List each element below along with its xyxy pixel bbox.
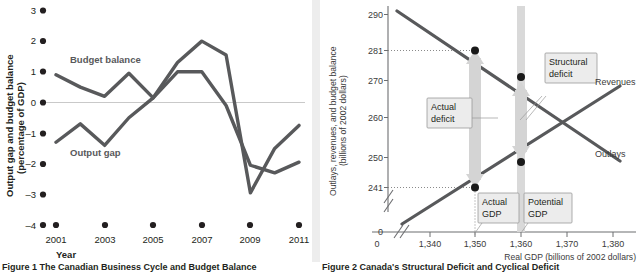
- revenues-label: Revenues: [595, 77, 636, 87]
- figure-1-panel: Output gap and budget balance (percentag…: [0, 0, 319, 272]
- left-xtick-2007: 2007: [191, 234, 212, 245]
- right-xtick-1380: 1,380: [602, 239, 625, 249]
- marker-actual-outlays: [471, 47, 479, 55]
- left-ytick-m3: –3: [25, 189, 36, 200]
- callout-structural-deficit: Structural deficit: [545, 53, 597, 83]
- callout-actual-gdp-line1: Actual: [482, 197, 507, 207]
- marker-potential-outlays: [517, 73, 525, 81]
- right-x-axis-title: Real GDP (billions of 2002 dollars): [504, 252, 636, 262]
- budget-balance-label: Budget balance: [70, 54, 141, 65]
- left-ytick-dot-m3: [40, 191, 46, 197]
- figure-2-panel: Outlays, revenues, and budget balance (b…: [320, 0, 639, 272]
- left-x-ticks: 2001 2003 2005 2007 2009 2011: [45, 222, 309, 245]
- right-ytick-290: 290: [368, 10, 383, 20]
- callout-structural-deficit-line2: deficit: [549, 69, 573, 79]
- right-ytick-260: 260: [368, 113, 383, 123]
- right-xtick-1360: 1,360: [510, 239, 533, 249]
- left-ytick-2: 2: [31, 35, 36, 46]
- left-xtick-2009: 2009: [239, 234, 260, 245]
- left-ytick-dot-m4: [40, 222, 46, 228]
- outlays-label: Outlays: [595, 149, 626, 159]
- left-xtick-dot-2005: [150, 222, 156, 228]
- right-y-axis-title: Outlays, revenues, and budget balance (b…: [328, 46, 348, 196]
- axis-break-marks: [384, 190, 409, 238]
- left-ytick-1: 1: [31, 66, 36, 77]
- left-ytick-dot-m2: [40, 161, 46, 167]
- right-y-axis-title-line2: (billions of 2002 dollars): [338, 75, 348, 166]
- marker-potential-revenues: [517, 158, 525, 166]
- callout-actual-deficit-line1: Actual: [431, 102, 456, 112]
- left-y-axis-title: Output gap and budget balance (percentag…: [4, 55, 26, 198]
- left-y-ticks: 3 2 1 0 –1 –2 –3 –4: [25, 5, 46, 231]
- left-xtick-dot-2009: [247, 222, 253, 228]
- left-ytick-dot-2: [40, 38, 46, 44]
- figure-pair-page: Output gap and budget balance (percentag…: [0, 0, 639, 272]
- left-y-axis-title-line1: Output gap and budget balance: [4, 55, 15, 198]
- callout-potential-gdp: Potential GDP: [524, 193, 572, 223]
- structural-deficit-arrow: [512, 82, 530, 160]
- left-ytick-dot-3: [40, 7, 46, 13]
- left-xtick-dot-2007: [199, 222, 205, 228]
- right-y-axis-title-line1: Outlays, revenues, and budget balance: [328, 46, 338, 196]
- figure-1-caption: Figure 1 The Canadian Business Cycle and…: [2, 262, 257, 272]
- left-x-axis-title: Year: [56, 249, 76, 260]
- right-xtick-0: 0: [374, 239, 379, 249]
- callout-potential-gdp-line2: GDP: [528, 209, 548, 219]
- left-ytick-m1: –1: [25, 128, 36, 139]
- right-xtick-1350: 1,350: [464, 239, 487, 249]
- right-y-ticks: 290 281 270 260 250 241 0: [368, 10, 388, 237]
- left-xtick-2005: 2005: [142, 234, 163, 245]
- right-ytick-281: 281: [368, 46, 383, 56]
- right-ytick-250: 250: [368, 153, 383, 163]
- left-xtick-2001: 2001: [45, 234, 66, 245]
- right-ytick-270: 270: [368, 76, 383, 86]
- left-ytick-3: 3: [31, 5, 36, 16]
- callout-actual-gdp: Actual GDP: [478, 193, 519, 223]
- left-ytick-m2: –2: [25, 158, 36, 169]
- figure-2-caption: Figure 2 Canada's Structural Deficit and…: [322, 262, 559, 272]
- left-ytick-dot-0: [40, 99, 46, 105]
- left-xtick-dot-2001: [53, 222, 59, 228]
- right-xtick-1370: 1,370: [556, 239, 579, 249]
- left-xtick-2003: 2003: [94, 234, 115, 245]
- callout-actual-gdp-line2: GDP: [482, 209, 502, 219]
- left-ytick-m4: –4: [25, 220, 36, 231]
- left-y-axis-title-line2: (percentage of GDP): [15, 82, 26, 174]
- callout-potential-gdp-line1: Potential: [528, 197, 563, 207]
- left-xtick-dot-2011: [296, 222, 302, 228]
- callout-actual-deficit: Actual deficit: [427, 98, 472, 128]
- right-x-ticks: 0 1,340 1,350 1,360 1,370 1,380: [374, 232, 624, 249]
- left-ytick-0: 0: [31, 97, 36, 108]
- callout-structural-deficit-line1: Structural: [549, 57, 588, 67]
- callout-actual-deficit-line2: deficit: [431, 114, 455, 124]
- right-xtick-1340: 1,340: [419, 239, 442, 249]
- figure-2-chart: Outlays, revenues, and budget balance (b…: [320, 0, 639, 272]
- output-gap-label: Output gap: [70, 147, 121, 158]
- right-ytick-0: 0: [378, 227, 383, 237]
- marker-actual-revenues: [471, 184, 479, 192]
- left-ytick-dot-1: [40, 68, 46, 74]
- left-xtick-2011: 2011: [289, 234, 309, 245]
- left-xtick-dot-2003: [102, 222, 108, 228]
- right-ytick-241: 241: [368, 183, 383, 193]
- outlays-line: [397, 11, 620, 161]
- figure-1-chart: Output gap and budget balance (percentag…: [0, 0, 319, 272]
- left-ytick-dot-m1: [40, 130, 46, 136]
